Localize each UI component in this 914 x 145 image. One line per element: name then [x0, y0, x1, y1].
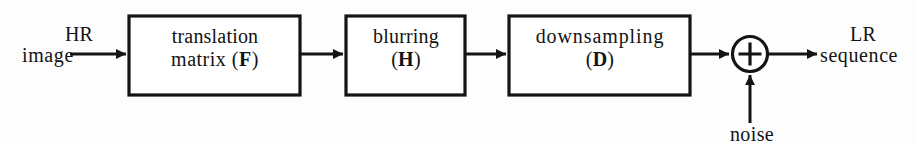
block-downsampling-line1: downsampling [510, 26, 690, 47]
block-blurring-line2: (H) [347, 49, 465, 70]
input-label-line1: HR [22, 24, 122, 45]
output-label-line2: sequence [820, 45, 914, 66]
noise-label: noise [712, 124, 792, 145]
block-downsampling-line2-suffix: ) [607, 48, 614, 70]
input-label: HR image [22, 24, 122, 66]
block-translation-matrix-line2: matrix (F) [130, 49, 300, 70]
output-label-line1: LR [820, 24, 914, 45]
block-translation-matrix-line1: translation [130, 26, 300, 47]
block-downsampling-operator: D [593, 48, 608, 70]
input-label-line2: image [22, 45, 122, 66]
block-blurring-line2-suffix: ) [414, 48, 421, 70]
block-translation-matrix-label: translation matrix (F) [130, 26, 300, 70]
block-diagram: HR image translation matrix (F) blurring… [0, 0, 914, 145]
block-blurring-label: blurring (H) [347, 26, 465, 70]
block-blurring-operator: H [398, 48, 414, 70]
output-label: LR sequence [820, 24, 914, 66]
block-translation-matrix-operator: F [239, 48, 252, 70]
block-blurring-line1: blurring [347, 26, 465, 47]
block-downsampling-label: downsampling (D) [510, 26, 690, 70]
block-translation-matrix-line2-text: matrix ( [171, 48, 239, 70]
block-downsampling-line2: (D) [510, 49, 690, 70]
block-downsampling-line2-text: ( [586, 48, 593, 70]
block-translation-matrix-line2-suffix: ) [252, 48, 259, 70]
